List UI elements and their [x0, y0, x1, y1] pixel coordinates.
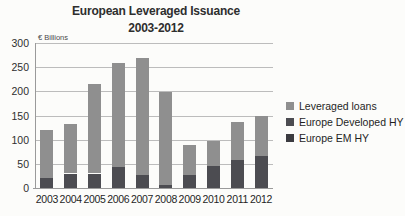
gridline [35, 116, 273, 117]
legend-item: Leveraged loans [286, 100, 403, 111]
bar-segment [112, 63, 125, 167]
gridline [35, 67, 273, 68]
chart-canvas: European Leveraged Issuance 2003-2012 € … [0, 0, 405, 216]
y-axis-tick-label: 150 [0, 110, 29, 122]
chart-title: European Leveraged Issuance 2003-2012 [0, 3, 312, 37]
bar-segment [40, 130, 53, 178]
bar-segment [231, 122, 244, 160]
gridline [35, 91, 273, 92]
bar-segment [112, 167, 125, 188]
y-axis-unit-label: € Billions [38, 33, 68, 42]
y-axis-line [35, 43, 36, 188]
y-axis-tick-label: 0 [0, 182, 29, 194]
bar-segment [207, 141, 220, 166]
y-axis-tick-label: 200 [0, 85, 29, 97]
chart-title-line1: European Leveraged Issuance [0, 3, 312, 20]
bar-segment [88, 174, 101, 189]
legend-label: Europe Developed HY [299, 116, 403, 128]
bar-segment [159, 92, 172, 185]
x-axis-tick-label: 2012 [247, 193, 275, 205]
legend-swatch-icon [286, 134, 294, 142]
bar-segment [255, 156, 268, 188]
bar-segment [64, 124, 77, 174]
gridline [35, 43, 273, 44]
bar-segment [231, 160, 244, 188]
bar-segment [136, 58, 149, 176]
x-axis-line [33, 188, 273, 189]
y-axis-tick-label: 250 [0, 61, 29, 73]
bar-segment [64, 174, 77, 189]
y-axis-tick-label: 300 [0, 37, 29, 49]
bar-segment [255, 116, 268, 155]
y-axis-tick-label: 100 [0, 134, 29, 146]
legend-swatch-icon [286, 102, 294, 110]
legend-item: Europe Developed HY [286, 116, 403, 127]
legend-label: Europe EM HY [299, 132, 369, 144]
legend-label: Leveraged loans [299, 100, 377, 112]
bar-segment [40, 178, 53, 188]
bar-segment [88, 84, 101, 174]
y-axis-tick-label: 50 [0, 158, 29, 170]
bar-segment [207, 166, 220, 188]
bar-segment [183, 175, 196, 188]
legend-swatch-icon [286, 118, 294, 126]
legend-item: Europe EM HY [286, 132, 403, 143]
bar-segment [183, 145, 196, 175]
legend: Leveraged loans Europe Developed HY Euro… [286, 100, 403, 148]
bar-segment [136, 175, 149, 188]
